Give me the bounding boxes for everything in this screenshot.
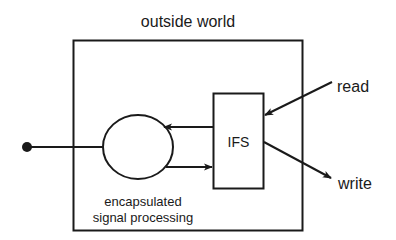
write-arrow — [264, 142, 331, 178]
encapsulated-label-line2: signal processing — [93, 210, 193, 225]
diagram-canvas: outside world IFS read write encapsulate… — [0, 0, 396, 240]
write-label: write — [337, 175, 372, 192]
signal-processing-node — [103, 115, 173, 179]
outside-world-label: outside world — [141, 13, 235, 30]
read-arrow — [265, 82, 332, 115]
encapsulated-label-line1: encapsulated — [104, 194, 181, 209]
ifs-label: IFS — [228, 134, 250, 150]
read-label: read — [337, 78, 369, 95]
input-terminal-dot — [22, 142, 32, 152]
